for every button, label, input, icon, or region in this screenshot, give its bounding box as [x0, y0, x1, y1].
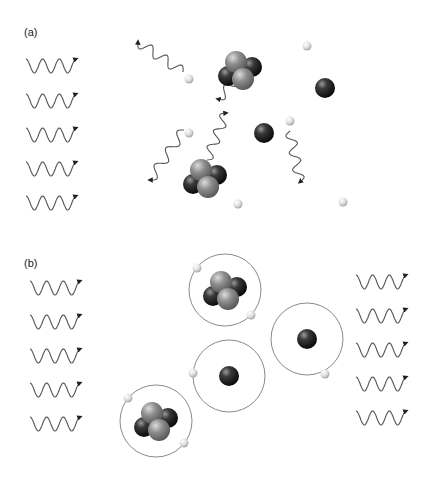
- hydrogen-nucleus-icon: [254, 123, 274, 143]
- helium-nucleus-icon: [218, 51, 262, 90]
- photon-wave-icon: [356, 377, 406, 391]
- hydrogen-atom-icon: [271, 303, 343, 379]
- photon-wave-icon: [30, 315, 80, 329]
- photon-wave-icon: [356, 309, 406, 323]
- electron-icon: [303, 42, 312, 51]
- photon-wave-icon: [26, 59, 76, 73]
- photon-wave-icon: [356, 343, 406, 357]
- electron-icon: [185, 129, 194, 138]
- photon-wave-icon: [26, 196, 76, 210]
- photon-wave-icon: [26, 128, 76, 142]
- helium-nucleus-icon: [183, 159, 227, 198]
- hydrogen-atom-icon: [189, 340, 266, 412]
- electron-icon: [286, 117, 295, 126]
- photon-wave-icon: [30, 281, 80, 295]
- scattered-photon-icon: [138, 42, 183, 72]
- helium-nucleus-icon: [134, 402, 178, 441]
- helium-atom-icon: [189, 254, 261, 326]
- electron-icon: [124, 394, 133, 403]
- hydrogen-nucleus-icon: [297, 329, 317, 349]
- electron-icon: [180, 439, 189, 448]
- scattered-photon-icon: [207, 113, 226, 160]
- photon-wave-icon: [30, 349, 80, 363]
- electron-icon: [185, 75, 194, 84]
- helium-nucleus-icon: [203, 271, 247, 310]
- electron-icon: [189, 369, 198, 378]
- electron-icon: [193, 264, 202, 273]
- photon-wave-icon: [30, 383, 80, 397]
- photon-wave-icon: [26, 94, 76, 108]
- scattered-photon-icon: [150, 130, 184, 180]
- neutron-icon: [197, 176, 219, 198]
- photon-wave-icon: [356, 275, 406, 289]
- electron-icon: [339, 198, 348, 207]
- neutron-icon: [232, 68, 254, 90]
- electron-icon: [321, 370, 330, 379]
- panel-a: [26, 42, 348, 211]
- helium-atom-icon: [120, 385, 192, 457]
- neutron-icon: [148, 419, 170, 441]
- photon-wave-icon: [30, 417, 80, 431]
- photon-wave-icon: [356, 411, 406, 425]
- hydrogen-nucleus-icon: [315, 78, 335, 98]
- panel-b: [30, 254, 406, 457]
- photon-wave-icon: [26, 162, 76, 176]
- scattered-photon-icon: [286, 131, 304, 182]
- electron-icon: [234, 200, 243, 209]
- electron-icon: [247, 311, 256, 320]
- diagram-canvas: [0, 0, 429, 490]
- neutron-icon: [217, 288, 239, 310]
- hydrogen-nucleus-icon: [219, 366, 239, 386]
